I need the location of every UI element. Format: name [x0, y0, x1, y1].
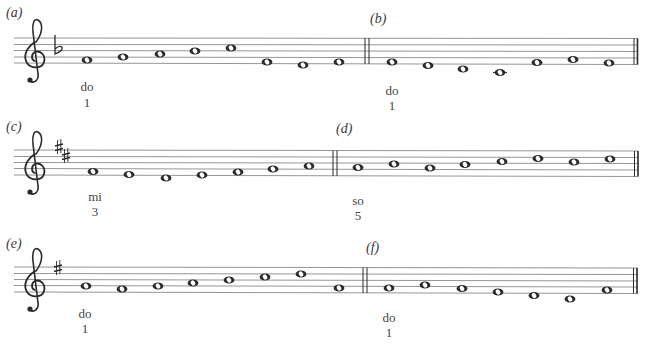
notes-example-c — [88, 162, 315, 181]
treble-clef-icon — [25, 20, 44, 83]
staff-lines — [14, 267, 638, 294]
note-E4 — [197, 171, 208, 178]
note-F#4 — [88, 168, 99, 175]
note-A4 — [425, 164, 436, 171]
note-E4 — [423, 62, 434, 69]
sharp-key-signature-icon — [55, 139, 63, 154]
note-B4 — [389, 160, 400, 167]
note-A4 — [304, 162, 315, 169]
note-C#5 — [569, 158, 580, 165]
note-F4 — [82, 56, 93, 63]
note-D4 — [161, 174, 172, 181]
note-A4 — [155, 50, 166, 57]
note-G4 — [118, 53, 129, 60]
note-C#5 — [497, 158, 508, 165]
note-A4 — [568, 56, 579, 63]
staff-lines — [14, 150, 638, 177]
note-D4 — [565, 295, 576, 302]
note-F#4 — [493, 288, 504, 295]
note-G4 — [334, 284, 345, 291]
note-F4 — [334, 58, 345, 65]
note-B4 — [224, 276, 235, 283]
note-D5 — [533, 155, 544, 162]
note-C4-ledger — [493, 69, 507, 76]
notes-example-a — [82, 44, 345, 68]
note-G4 — [81, 282, 92, 289]
note-G4 — [457, 285, 468, 292]
note-D4 — [298, 61, 309, 68]
note-C5 — [226, 44, 237, 51]
music-score — [0, 0, 645, 350]
note-F4 — [604, 59, 615, 66]
note-A4 — [353, 164, 364, 171]
note-E4 — [262, 58, 273, 65]
note-F#4 — [233, 168, 244, 175]
note-G4 — [602, 286, 613, 293]
staff-system-1 — [14, 20, 638, 83]
note-A4 — [420, 281, 431, 288]
notes-example-f — [384, 281, 613, 302]
note-E4 — [124, 171, 135, 178]
staff-system-2 — [14, 132, 638, 195]
note-D5 — [296, 270, 307, 277]
staff-system-3 — [14, 249, 638, 312]
staff-lines — [14, 38, 638, 65]
note-D5 — [605, 155, 616, 162]
note-G4 — [268, 165, 279, 172]
notes-example-b — [387, 56, 615, 76]
note-B4 — [460, 161, 471, 168]
note-F4 — [387, 58, 398, 65]
note-G4 — [532, 59, 543, 66]
note-G4 — [153, 282, 164, 289]
note-F#4 — [117, 285, 128, 292]
note-D4 — [458, 65, 469, 72]
note-G4 — [384, 284, 395, 291]
note-A4 — [188, 279, 199, 286]
treble-clef-icon — [25, 132, 44, 195]
note-C5 — [260, 273, 271, 280]
note-E4 — [529, 292, 540, 299]
treble-clef-icon — [25, 249, 44, 312]
note-Bb4 — [190, 47, 201, 54]
